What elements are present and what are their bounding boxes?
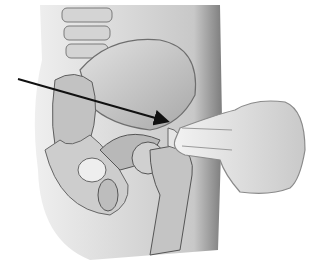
obturator-foramen: [78, 158, 106, 182]
ischial-tuberosity: [98, 179, 118, 211]
anatomy-illustration: [0, 0, 319, 267]
pelvis-hip-drawing: [0, 0, 319, 267]
